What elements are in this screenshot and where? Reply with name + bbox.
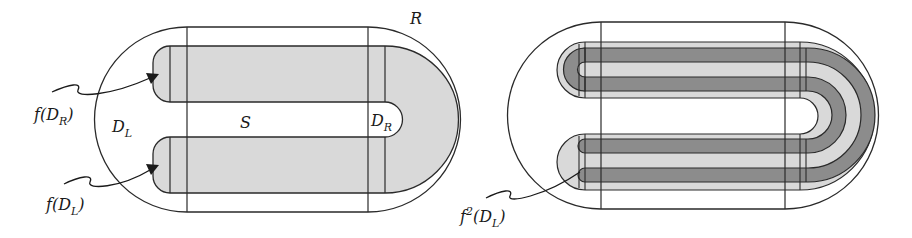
- horseshoe-map-diagram: R S DL DR f(DR) f(DL) f2(DL): [0, 0, 912, 238]
- label-f2-D-L: f2(DL): [459, 205, 506, 230]
- arrow-f-D-L: [64, 170, 150, 186]
- left-panel: R S DL DR f(DR) f(DL): [33, 9, 461, 218]
- label-D-R: DR: [370, 111, 392, 134]
- image-f-R-shaded: [153, 46, 458, 193]
- right-panel: f2(DL): [459, 22, 879, 230]
- label-f-D-R: f(DR): [33, 105, 74, 128]
- label-S: S: [240, 113, 251, 132]
- label-R: R: [409, 9, 422, 28]
- label-D-L: DL: [111, 117, 132, 140]
- label-f-D-L: f(DL): [45, 195, 85, 218]
